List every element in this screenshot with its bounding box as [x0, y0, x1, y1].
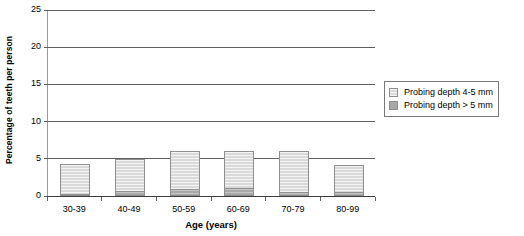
y-axis-tick	[44, 84, 48, 85]
dark-gray-swatch-icon	[389, 101, 398, 110]
x-axis-tick-label: 30-39	[63, 204, 86, 215]
legend-item-probing-depth-4-5mm: Probing depth 4-5 mm	[389, 86, 493, 99]
x-axis-tick	[265, 197, 266, 201]
y-axis-tick-label: 0	[36, 191, 41, 200]
plot-area	[47, 10, 375, 196]
y-axis-tick-label: 20	[31, 42, 41, 51]
light-gray-swatch-icon	[389, 88, 398, 97]
x-axis-title: Age (years)	[47, 219, 375, 230]
x-axis-tick	[101, 197, 102, 201]
x-axis-tick-label: 40-49	[117, 204, 140, 215]
y-axis-tick	[44, 10, 48, 11]
bars-layer	[48, 10, 375, 196]
legend-item-probing-depth-over-5mm: Probing depth > 5 mm	[389, 99, 493, 112]
y-axis-tick-label: 25	[31, 5, 41, 14]
legend-label: Probing depth > 5 mm	[404, 100, 493, 111]
y-axis-tick-labels: 0510152025	[18, 0, 44, 200]
x-axis-tick	[320, 197, 321, 201]
bar-segment-probing-depth-4-5mm	[115, 159, 145, 191]
bar-segment-probing-depth-4-5mm	[224, 151, 254, 187]
bar-segment-probing-depth-4-5mm	[279, 151, 309, 191]
bar-group	[60, 164, 90, 196]
y-axis-title-text: Percentage of teeth per person	[4, 36, 14, 164]
legend-label: Probing depth 4-5 mm	[404, 87, 493, 98]
bar-segment-probing-depth-4-5mm	[334, 165, 364, 193]
bar-group	[334, 165, 364, 196]
x-axis-tick	[156, 197, 157, 201]
y-axis-tick	[44, 121, 48, 122]
x-axis-tick	[47, 197, 48, 201]
bar-group	[279, 151, 309, 196]
y-axis-tick	[44, 158, 48, 159]
x-axis-tick-label: 70-79	[281, 204, 304, 215]
x-axis-tick	[375, 197, 376, 201]
x-axis-tick-label: 60-69	[227, 204, 250, 215]
x-axis-tick-label: 80-99	[336, 204, 359, 215]
bar-group	[170, 151, 200, 196]
bar-segment-probing-depth-over-5mm	[170, 189, 200, 196]
y-axis-tick-label: 10	[31, 117, 41, 126]
bar-segment-probing-depth-4-5mm	[60, 164, 90, 194]
y-axis-title: Percentage of teeth per person	[0, 0, 18, 200]
bar-chart: Percentage of teeth per person 051015202…	[0, 0, 524, 236]
x-axis-tick-label: 50-59	[172, 204, 195, 215]
bar-group	[115, 159, 145, 196]
x-axis-tick	[211, 197, 212, 201]
bar-segment-probing-depth-over-5mm	[224, 188, 254, 196]
bar-group	[224, 151, 254, 196]
y-axis-tick-label: 5	[36, 154, 41, 163]
y-axis-tick-label: 15	[31, 79, 41, 88]
y-axis-tick	[44, 47, 48, 48]
x-axis-ticks	[47, 197, 375, 202]
chart-legend: Probing depth 4-5 mm Probing depth > 5 m…	[384, 81, 499, 117]
x-axis-tick-labels: 30-3940-4950-5960-6970-7980-99	[47, 204, 375, 218]
bar-segment-probing-depth-4-5mm	[170, 151, 200, 188]
